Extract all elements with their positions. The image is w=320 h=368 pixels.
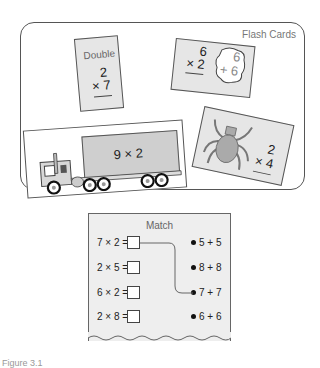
match-worksheet: Match 7 × 2 = 2 × 5 = 6 × 2 = 2 × 8 = 5 …: [88, 213, 231, 341]
torn-edge: [88, 332, 231, 344]
answer-line: [185, 72, 203, 75]
match-connector-line: [89, 214, 232, 342]
bubble-bottom-number: + 6: [219, 62, 239, 79]
truck-icon: [35, 140, 188, 195]
card-bottom-number: × 7: [91, 77, 111, 94]
card-bottom-number: × 2: [186, 55, 206, 72]
doubles-fact-flash-card: 6 × 2 6 + 6: [171, 38, 256, 98]
card-label: Double: [83, 48, 116, 62]
figure-caption: Figure 3.1: [2, 358, 43, 368]
double-flash-card: Double 2 × 7: [74, 35, 124, 112]
answer-line: [253, 171, 271, 176]
answer-line: [94, 95, 112, 98]
panel-title: Flash Cards: [242, 29, 296, 40]
truck-flash-card: 9 × 2: [23, 120, 187, 199]
spider-icon: [199, 112, 259, 175]
card-bottom-number: × 4: [254, 153, 275, 172]
